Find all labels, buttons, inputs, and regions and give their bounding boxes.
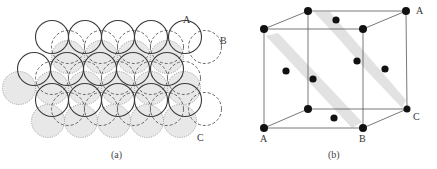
layer-a-atom bbox=[69, 21, 102, 54]
panel-a-close-packed-layers bbox=[3, 21, 222, 138]
layer-label-c: C bbox=[197, 132, 204, 143]
layer-label-b: B bbox=[220, 35, 227, 46]
layer-label-a: A bbox=[183, 14, 191, 25]
caption-a: (a) bbox=[111, 149, 122, 161]
layer-c-atom bbox=[32, 105, 65, 138]
vertex-label-bottom-front-right: B bbox=[359, 133, 366, 144]
layer-b-atom bbox=[189, 31, 222, 64]
figure-canvas: A B C (a) bbox=[0, 0, 437, 169]
layer-a-atom bbox=[18, 53, 51, 86]
caption-b: (b) bbox=[328, 149, 340, 161]
layer-a-atom bbox=[102, 21, 135, 54]
layer-a-atom bbox=[169, 21, 202, 54]
layer-c-atom bbox=[131, 105, 164, 138]
vertex-label-bottom-back-right: C bbox=[413, 111, 420, 122]
layer-a-atom bbox=[135, 21, 168, 54]
layer-c-atom bbox=[164, 105, 197, 138]
panel-b-fcc-cube bbox=[260, 7, 411, 132]
vertex-label-top-right: A bbox=[416, 5, 424, 16]
vertex-label-bottom-left: A bbox=[260, 133, 268, 144]
layer-c-atom bbox=[98, 105, 131, 138]
layer-a-atom bbox=[36, 21, 69, 54]
layer-c-atom bbox=[65, 105, 98, 138]
